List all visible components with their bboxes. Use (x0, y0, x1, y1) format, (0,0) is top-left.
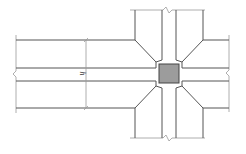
right-break-line (226, 35, 229, 112)
vertical-beam-top (130, 7, 205, 60)
horizontal-beam (16, 40, 229, 108)
column-square (159, 64, 179, 83)
left-break-line (13, 35, 16, 113)
joint-diagram (0, 0, 246, 154)
dimension-label-h: h (78, 72, 87, 76)
vertical-beam-bottom (130, 88, 205, 141)
